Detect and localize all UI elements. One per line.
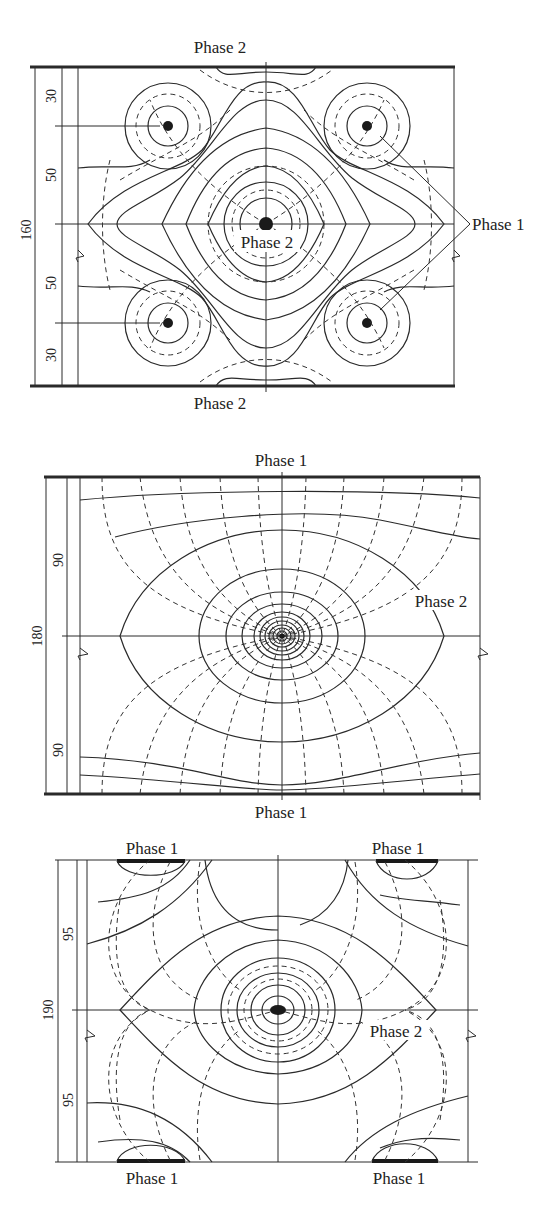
dimension-total: 160 (19, 220, 34, 241)
label-side: Phase 1 (472, 215, 524, 234)
dimension-1: 95 (61, 927, 76, 941)
break-mark (76, 250, 84, 262)
panel-c: Phase 1 Phase 1 Phase 1 Phase 1 Phase 2 … (41, 839, 478, 1188)
equipotential-lines (80, 491, 480, 798)
conductor-dot (163, 318, 173, 328)
panel-a: Phase 2 Phase 2 Phase 2 Phase 1 160 30 5… (19, 38, 524, 413)
center-conductor-dot (270, 1005, 286, 1015)
label-top: Phase 1 (255, 451, 307, 470)
label-center: Phase 2 (370, 1022, 422, 1041)
label-top-left: Phase 1 (126, 839, 178, 858)
label-top-right: Phase 1 (372, 839, 424, 858)
label-center: Phase 2 (415, 592, 467, 611)
panel-b: Phase 1 Phase 1 Phase 2 180 90 90 (30, 451, 488, 822)
dimension-4: 30 (44, 348, 59, 362)
dimension-1: 90 (51, 553, 66, 567)
dimension-1: 30 (44, 89, 59, 103)
dimension-total: 190 (41, 1000, 56, 1021)
center-conductor-dot (259, 217, 273, 231)
dimension-2: 50 (44, 168, 59, 182)
label-bottom: Phase 1 (255, 803, 307, 822)
label-bottom-left: Phase 1 (126, 1169, 178, 1188)
dimension-2: 95 (61, 1093, 76, 1107)
center-conductor-dot (280, 634, 285, 639)
label-top: Phase 2 (194, 38, 246, 57)
dimension-3: 50 (44, 276, 59, 290)
label-bottom-right: Phase 1 (373, 1169, 425, 1188)
dimension-total: 180 (30, 626, 45, 647)
dimension-2: 90 (51, 743, 66, 757)
break-mark (452, 250, 460, 262)
label-center: Phase 2 (241, 233, 293, 252)
label-bottom: Phase 2 (194, 394, 246, 413)
